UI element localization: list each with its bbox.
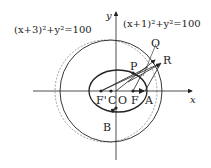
label-c: C — [108, 94, 116, 107]
equation-right: (x+1)²+y²=100 — [123, 18, 201, 29]
label-q: Q — [151, 37, 160, 50]
y-axis-label: y — [105, 10, 112, 21]
label-f: F — [131, 94, 139, 107]
point-fprime — [99, 89, 102, 92]
label-p: P — [130, 60, 138, 73]
geometry-diagram: (x+3)²+y²=100 (x+1)²+y²=100 x y F' C O F… — [0, 0, 211, 168]
label-a: A — [144, 94, 154, 107]
label-fprime: F' — [96, 94, 107, 107]
point-f — [131, 89, 134, 92]
label-r: R — [163, 54, 172, 67]
label-b: B — [103, 121, 111, 134]
label-o: O — [118, 94, 127, 107]
equation-left: (x+3)²+y²=100 — [14, 24, 92, 35]
point-c — [109, 89, 112, 92]
x-axis-label: x — [190, 94, 196, 105]
